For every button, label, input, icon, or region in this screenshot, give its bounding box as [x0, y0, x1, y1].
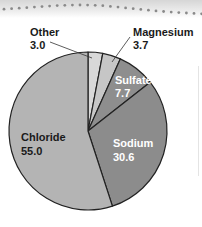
label-magnesium-value: 3.7: [133, 39, 148, 51]
label-sodium-name: Sodium: [113, 137, 154, 149]
leader-line-magnesium: [112, 37, 130, 62]
label-chloride-name: Chloride: [21, 131, 66, 143]
label-sulfate-value: 7.7: [115, 87, 130, 99]
pie-chart: Other 3.0 Magnesium 3.7 Sulfate 7.7 Sodi…: [0, 0, 202, 227]
decorative-dot-arc: [3, 4, 202, 16]
label-sulfate-name: Sulfate: [115, 74, 152, 86]
label-sodium-value: 30.6: [113, 151, 134, 163]
label-other-name: Other: [30, 26, 60, 38]
label-magnesium-name: Magnesium: [133, 26, 194, 38]
label-chloride-value: 55.0: [21, 145, 42, 157]
label-other-value: 3.0: [30, 39, 45, 51]
